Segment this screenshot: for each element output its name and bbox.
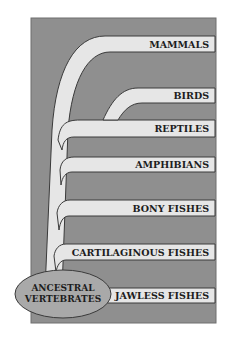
- label-bony-fishes: BONY FISHES: [133, 203, 210, 214]
- label-reptiles: REPTILES: [154, 123, 209, 134]
- label-mammals: MAMMALS: [149, 39, 209, 50]
- label-jawless-fishes: JAWLESS FISHES: [114, 290, 209, 301]
- root-label-line1: ANCESTRAL: [30, 283, 95, 293]
- root-label-line2: VERTEBRATES: [24, 294, 101, 304]
- label-birds: BIRDS: [174, 90, 210, 101]
- label-amphibians: AMPHIBIANS: [134, 159, 209, 170]
- phylogeny-diagram: ANCESTRAL VERTEBRATES MAMMALS BIRDS REPT…: [0, 0, 233, 348]
- label-cartilaginous-fishes: CARTILAGINOUS FISHES: [72, 247, 209, 258]
